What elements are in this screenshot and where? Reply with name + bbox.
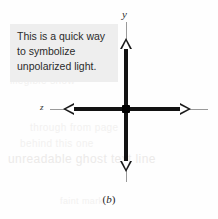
caption-close-paren: ) — [112, 193, 116, 205]
showthrough-text: behind this one — [20, 138, 94, 149]
origin-dot — [122, 105, 130, 113]
showthrough-text: through from page — [30, 122, 119, 133]
axis-label-z: z — [40, 102, 44, 112]
showthrough-text: unreadable ghost text line — [8, 152, 156, 166]
callout-text: This is a quick way to symbolize unpolar… — [17, 29, 111, 74]
arrowhead-left-icon — [63, 103, 74, 115]
arrowhead-up-icon — [120, 38, 132, 49]
arrowhead-right-icon — [180, 103, 191, 115]
unpolarized-light-figure: the reverse of printed faint bleed text … — [0, 0, 218, 219]
axis-label-y: y — [122, 8, 127, 20]
figure-caption: (b) — [0, 193, 218, 205]
callout-box: This is a quick way to symbolize unpolar… — [10, 24, 118, 82]
arrowhead-down-icon — [120, 161, 132, 172]
